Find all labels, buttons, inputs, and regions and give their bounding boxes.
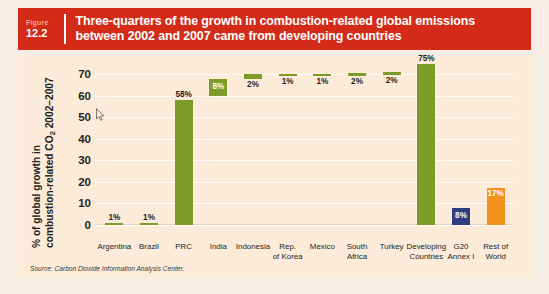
y-axis-tick-label: 10 xyxy=(78,197,91,209)
source-note: Source: Carbon Dioxide Information Analy… xyxy=(30,265,184,272)
bar-value-label: 2% xyxy=(386,76,398,85)
bar-south-africa[interactable]: 2% xyxy=(348,73,366,76)
y-axis-title-subscript: 2 xyxy=(48,131,57,135)
bar-rep-of-korea[interactable]: 1% xyxy=(279,74,297,77)
bar-g20-annex-i[interactable]: 8% xyxy=(452,208,470,225)
figure-title: Three-quarters of the growth in combusti… xyxy=(75,14,531,44)
y-axis-tick-label: 40 xyxy=(78,133,91,145)
gridline xyxy=(97,160,513,161)
gridline xyxy=(97,203,513,204)
figure-number-block: Figure 12.2 xyxy=(18,8,64,50)
gridline xyxy=(97,96,513,97)
mouse-cursor-icon xyxy=(96,108,105,121)
gridline xyxy=(97,117,513,118)
y-axis-title-line2-pre: combustion-related CO xyxy=(44,135,55,248)
y-axis-title: % of global growth in combustion-related… xyxy=(30,48,59,248)
figure-page: Figure 12.2 Three-quarters of the growth… xyxy=(0,0,549,294)
bar-argentina[interactable]: 1% xyxy=(105,223,123,226)
bar-value-label: 1% xyxy=(282,77,294,86)
gridline xyxy=(97,182,513,183)
gridline xyxy=(97,139,513,140)
y-axis-tick-label: 70 xyxy=(78,68,91,80)
y-axis-title-line2: combustion-related CO2 2002–2007 xyxy=(43,48,59,248)
figure-number: 12.2 xyxy=(26,27,64,40)
x-axis-tick-label-line: Rest of xyxy=(474,242,517,252)
bar-prc[interactable]: 58% xyxy=(175,100,193,225)
figure-word-label: Figure xyxy=(26,18,64,27)
bar-value-label: 75% xyxy=(418,54,434,63)
bar-value-label: 2% xyxy=(247,80,259,89)
bar-value-label: 2% xyxy=(351,77,363,86)
bar-value-label: 17% xyxy=(487,189,503,198)
bar-brazil[interactable]: 1% xyxy=(140,223,158,226)
y-axis-title-line2-post: 2002–2007 xyxy=(44,77,55,131)
bar-value-label: 1% xyxy=(108,213,120,222)
x-axis-tick-label-line: Africa xyxy=(336,252,379,262)
bar-turkey[interactable]: 2% xyxy=(383,72,401,75)
bar-value-label: 8% xyxy=(455,211,467,220)
bar-value-label: 1% xyxy=(143,213,155,222)
y-axis-tick-label: 30 xyxy=(78,154,91,166)
bar-indonesia[interactable]: 2% xyxy=(244,74,262,78)
bar-value-label: 1% xyxy=(316,77,328,86)
bar-mexico[interactable]: 1% xyxy=(313,74,331,77)
bar-india[interactable]: 8% xyxy=(209,79,227,96)
bar-developing-countries[interactable]: 75% xyxy=(417,64,435,225)
x-axis-tick-label-line: of Korea xyxy=(266,252,309,262)
plot-area: 0102030405060701%Argentina1%Brazil58%PRC… xyxy=(97,70,513,225)
chart-panel: % of global growth in combustion-related… xyxy=(18,56,531,278)
bar-value-label: 58% xyxy=(175,90,191,99)
y-axis-tick-label: 50 xyxy=(78,111,91,123)
x-axis-tick-label-line: World xyxy=(474,252,517,262)
gridline xyxy=(97,74,513,75)
gridline xyxy=(97,225,513,226)
x-axis-tick-label: Rest ofWorld xyxy=(474,242,517,261)
y-axis-tick-label: 0 xyxy=(85,219,91,231)
y-axis-title-wrap: % of global growth in combustion-related… xyxy=(30,64,70,264)
y-axis-tick-label: 20 xyxy=(78,176,91,188)
bar-rest-of-world[interactable]: 17% xyxy=(487,188,505,225)
y-axis-tick-label: 60 xyxy=(78,90,91,102)
figure-header-banner: Figure 12.2 Three-quarters of the growth… xyxy=(18,8,531,50)
bar-value-label: 8% xyxy=(212,82,224,91)
y-axis-title-line1: % of global growth in xyxy=(30,48,43,248)
header-divider-rule xyxy=(64,14,66,44)
